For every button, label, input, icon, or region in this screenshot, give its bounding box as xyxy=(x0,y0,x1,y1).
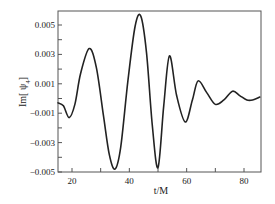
y-axis-label: Im[ ψ4] xyxy=(17,77,32,107)
x-tick-label: 40 xyxy=(125,176,135,186)
x-tick-label: 60 xyxy=(182,176,192,186)
y-tick-label: 0.003 xyxy=(35,49,56,59)
x-tick-label: 80 xyxy=(240,176,250,186)
chart-svg: 0.0050.0030.001−0.001−0.003−0.005 204060… xyxy=(0,0,275,204)
y-tick-label: −0.001 xyxy=(30,108,55,118)
y-axis-ticks: 0.0050.0030.001−0.001−0.003−0.005 xyxy=(30,20,62,177)
y-tick-label: −0.005 xyxy=(30,167,56,177)
y-tick-label: 0.005 xyxy=(35,20,56,30)
x-axis-label: t/M xyxy=(154,185,169,196)
series-line-im-psi4 xyxy=(58,14,260,169)
y-tick-label: 0.001 xyxy=(35,79,55,89)
x-tick-label: 20 xyxy=(68,176,78,186)
x-axis-ticks: 20406080 xyxy=(68,168,250,186)
y-tick-label: −0.003 xyxy=(30,138,56,148)
